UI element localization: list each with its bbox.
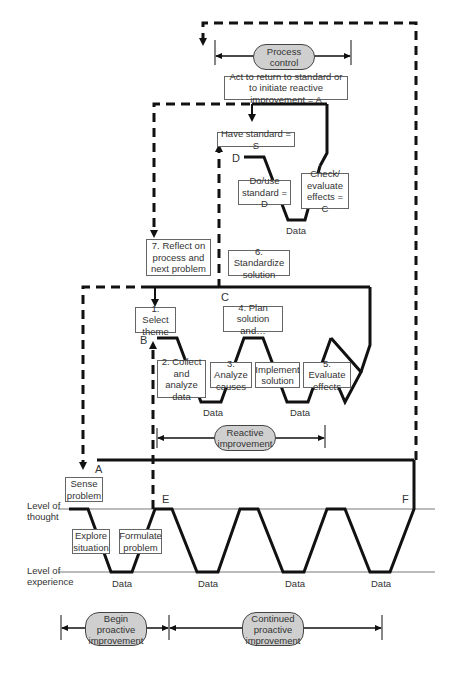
- step-1-select-box: 1. Select theme: [135, 307, 176, 333]
- data-label: Data: [198, 578, 218, 589]
- data-label: Data: [203, 407, 223, 418]
- data-label: Data: [286, 225, 306, 236]
- begin-proactive-pill: Begin proactive improvement: [85, 612, 147, 646]
- sense-problem-box: Sense problem: [65, 477, 103, 502]
- have-standard-box: Have standard = S: [217, 132, 295, 147]
- letter-f: F: [402, 493, 409, 505]
- formulate-problem-box: Formulate problem: [119, 529, 162, 554]
- letter-a: A: [95, 463, 102, 475]
- process-control-pill: Process control: [253, 44, 315, 70]
- proactive-cycle-line: [69, 460, 414, 572]
- implement-box: Implement solution: [255, 362, 300, 388]
- reactive-improvement-pill: Reactive improvement: [214, 425, 276, 451]
- step-7-reflect-box: 7. Reflect on process and next problem: [146, 239, 211, 276]
- data-label: Data: [285, 578, 305, 589]
- act-box: Act to return to standard or to initiate…: [224, 76, 348, 100]
- letter-b: B: [140, 334, 147, 346]
- check-box: Check/ evaluate effects = C: [301, 173, 349, 209]
- step-5-evaluate-box: 5. Evaluate effects: [303, 362, 351, 388]
- step-2-collect-box: 2. Collect and analyze data: [157, 360, 206, 398]
- explore-situation-box: Explore situation: [72, 529, 110, 554]
- step-6-standardize-box: 6. Standardize solution: [228, 250, 290, 276]
- level-of-experience-label: Level of experience: [27, 565, 87, 587]
- continued-proactive-pill: Continued proactive improvement: [242, 612, 304, 646]
- data-label: Data: [371, 578, 391, 589]
- data-label: Data: [112, 578, 132, 589]
- data-label: Data: [290, 407, 310, 418]
- do-use-box: Do/use standard = D: [238, 180, 291, 205]
- step-3-analyze-box: 3. Analyze causes: [210, 362, 252, 388]
- level-of-thought-label: Level of thought: [27, 500, 67, 522]
- letter-e: E: [162, 493, 169, 505]
- letter-d: D: [232, 152, 240, 164]
- step-4-plan-box: 4. Plan solution and…: [223, 306, 283, 332]
